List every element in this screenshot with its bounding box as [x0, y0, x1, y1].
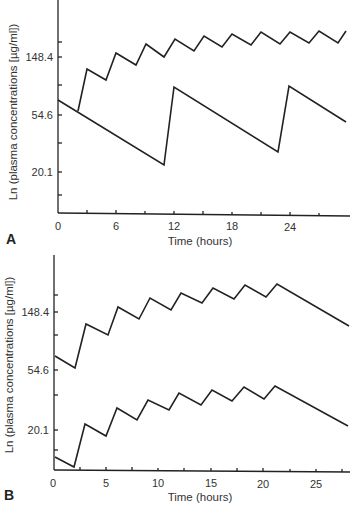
panel-a-ytick-148: 148.4	[25, 51, 53, 63]
panel-b-x-axis	[54, 470, 350, 472]
panel-b-lower-curve	[55, 386, 348, 467]
panel-a-lower-curve	[58, 86, 346, 165]
panel-b: 148.4 54.6 20.1 0 5 10 15 20 25 Time (ho…	[3, 255, 350, 503]
panel-a-x-axis	[58, 213, 350, 216]
panel-a: 148.4 54.6 20.1 0 6 12 18 24 Time (hours…	[6, 0, 350, 247]
panel-a-ytick-20: 20.1	[32, 166, 53, 178]
panel-b-label: B	[4, 487, 14, 503]
panel-b-ytick-20: 20.1	[28, 424, 49, 436]
panel-a-y-title: Ln (plasma concentrations [µg/ml])	[7, 24, 19, 201]
panel-b-xtick-20: 20	[257, 478, 269, 490]
panel-a-label: A	[6, 231, 16, 247]
panel-b-xtick-0: 0	[50, 477, 56, 489]
panel-b-xtick-10: 10	[152, 477, 164, 489]
panel-a-x-title: Time (hours)	[168, 235, 233, 247]
panel-b-upper-curve	[55, 284, 349, 368]
panel-a-ytick-54: 54.6	[32, 109, 53, 121]
panel-a-xtick-12: 12	[168, 220, 180, 232]
panel-b-ytick-148: 148.4	[21, 306, 49, 318]
panel-b-xtick-15: 15	[205, 477, 217, 489]
panel-b-xtick-5: 5	[103, 477, 109, 489]
panel-b-x-title: Time (hours)	[168, 491, 233, 503]
panel-b-xtick-25: 25	[310, 478, 322, 490]
panel-a-xtick-6: 6	[113, 220, 119, 232]
panel-b-ytick-54: 54.6	[28, 364, 49, 376]
panel-a-upper-curve	[78, 31, 346, 111]
panel-a-xtick-18: 18	[226, 220, 238, 232]
panel-a-xtick-24: 24	[284, 221, 296, 233]
figure: 148.4 54.6 20.1 0 6 12 18 24 Time (hours…	[0, 0, 352, 506]
panel-b-y-title: Ln (plasma concentrations [µg/ml])	[3, 277, 15, 454]
panel-a-xtick-0: 0	[55, 220, 61, 232]
